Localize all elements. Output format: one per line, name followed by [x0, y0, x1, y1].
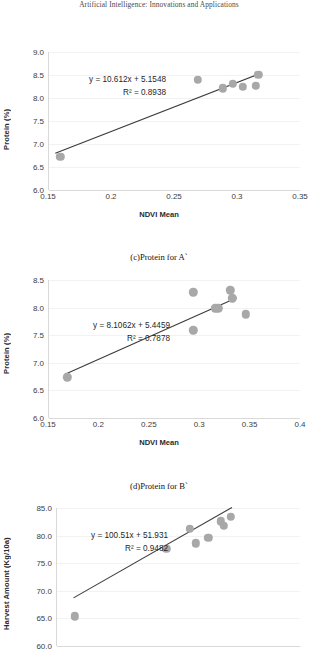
y-tick-label: 7.5 — [33, 331, 44, 340]
gridline — [49, 418, 300, 419]
caption-chart-d: (d)Protein for B` — [0, 481, 318, 491]
y-tick-label: 6.5 — [33, 386, 44, 395]
regression-equation: y = 8.1062x + 5.4459 — [80, 320, 170, 333]
chart-c-yticks: 6.06.57.07.58.08.59.0 — [0, 52, 44, 190]
x-tick-label: 0.4 — [294, 420, 305, 429]
chart-e-wrapper: Harvest Amount (Kg/10a) 60.065.070.075.0… — [0, 500, 318, 650]
chart-c-plot-area — [48, 52, 300, 190]
r-squared-value: R² = 0.9482 — [78, 543, 168, 556]
running-head: Artificial Intelligence: Innovations and… — [0, 0, 318, 9]
trend-line — [49, 52, 300, 190]
trend-line — [57, 508, 300, 646]
x-tick-label: 0.2 — [93, 420, 104, 429]
caption-chart-c: (c)Protein for A` — [0, 252, 318, 262]
chart-e-plot-area — [56, 508, 300, 646]
y-tick-label: 7.0 — [33, 140, 44, 149]
regression-annotation: y = 100.51x + 51.931R² = 0.9482 — [78, 530, 168, 555]
chart-d-wrapper: Protein (%) 6.06.57.07.58.08.5 0.150.20.… — [0, 272, 318, 442]
x-tick-label: 0.25 — [141, 420, 157, 429]
y-tick-label: 7.5 — [33, 117, 44, 126]
figure-c: Protein (%) 6.06.57.07.58.08.59.0 0.150.… — [0, 40, 318, 210]
chart-e-yticks: 60.065.070.075.080.085.0 — [0, 508, 52, 646]
chart-c-wrapper: Protein (%) 6.06.57.07.58.08.59.0 0.150.… — [0, 40, 318, 210]
y-tick-label: 75.0 — [36, 559, 52, 568]
r-squared-value: R² = 0.7878 — [80, 333, 170, 346]
y-tick-label: 7.0 — [33, 358, 44, 367]
x-tick-label: 0.2 — [105, 192, 116, 201]
x-tick-label: 0.35 — [242, 420, 258, 429]
y-tick-label: 85.0 — [36, 504, 52, 513]
x-tick-label: 0.15 — [40, 192, 56, 201]
regression-annotation: y = 8.1062x + 5.4459R² = 0.7878 — [80, 320, 170, 345]
y-tick-label: 65.0 — [36, 614, 52, 623]
gridline — [49, 190, 300, 191]
figure-page: Artificial Intelligence: Innovations and… — [0, 0, 318, 650]
chart-d-yticks: 6.06.57.07.58.08.5 — [0, 280, 44, 418]
y-tick-label: 60.0 — [36, 642, 52, 650]
chart-d-xlabel: NDVI Mean — [0, 438, 318, 447]
x-tick-label: 0.15 — [40, 420, 56, 429]
y-tick-label: 8.5 — [33, 276, 44, 285]
regression-equation: y = 10.612x + 5.1548 — [76, 74, 166, 87]
figure-d: Protein (%) 6.06.57.07.58.08.5 0.150.20.… — [0, 272, 318, 442]
y-tick-label: 8.0 — [33, 303, 44, 312]
x-tick-label: 0.25 — [166, 192, 182, 201]
regression-equation: y = 100.51x + 51.931 — [78, 530, 168, 543]
x-tick-label: 0.35 — [292, 192, 308, 201]
y-tick-label: 8.0 — [33, 94, 44, 103]
y-tick-label: 8.5 — [33, 71, 44, 80]
gridline — [57, 646, 300, 647]
x-tick-label: 0.3 — [194, 420, 205, 429]
regression-annotation: y = 10.612x + 5.1548R² = 0.8938 — [76, 74, 166, 99]
r-squared-value: R² = 0.8938 — [76, 87, 166, 100]
y-tick-label: 6.5 — [33, 163, 44, 172]
y-tick-label: 70.0 — [36, 586, 52, 595]
figure-e: Harvest Amount (Kg/10a) 60.065.070.075.0… — [0, 500, 318, 650]
chart-d-plot-area — [48, 280, 300, 418]
chart-c-xlabel: NDVI Mean — [0, 210, 318, 219]
x-tick-label: 0.3 — [231, 192, 242, 201]
y-tick-label: 80.0 — [36, 531, 52, 540]
trend-line — [49, 280, 300, 418]
y-tick-label: 9.0 — [33, 48, 44, 57]
